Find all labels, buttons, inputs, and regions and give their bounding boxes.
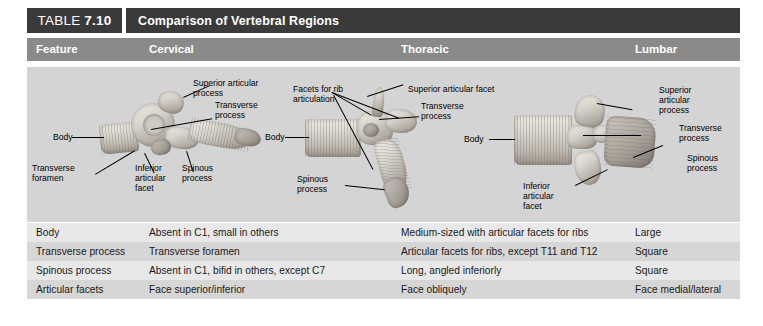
cell-feature: Articular facets: [36, 280, 103, 299]
thoracic-body-shape: [305, 119, 361, 157]
lumbar-inferior-articular-facet-shape: [572, 149, 604, 187]
table-number-badge: TABLE7.10: [27, 8, 122, 33]
thoracic-leader-superior-articular-facet: [367, 84, 403, 97]
cell-feature: Transverse process: [36, 242, 125, 261]
thoracic-leader-spinous-process: [345, 185, 385, 190]
column-header-row: Feature Cervical Thoracic Lumbar: [27, 38, 740, 61]
cell-cervical: Absent in C1, bifid in others, except C7: [149, 261, 325, 280]
table-number-word: TABLE: [38, 13, 81, 28]
cell-lumbar: Large: [635, 223, 661, 242]
column-header-cervical: Cervical: [149, 38, 194, 61]
cervical-label-superior-articular-process: Superior articular process: [193, 78, 258, 98]
thoracic-transverse-process-shape: [384, 108, 418, 135]
lumbar-label-spinous-process: Spinous process: [687, 153, 718, 173]
lumbar-label-transverse-process: Transverse process: [679, 123, 722, 143]
cell-cervical: Absent in C1, small in others: [149, 223, 279, 242]
thoracic-label-body: Body: [265, 132, 285, 142]
cell-lumbar: Square: [635, 261, 668, 280]
column-header-feature: Feature: [36, 38, 78, 61]
lumbar-spinous-process-shape: [603, 115, 656, 168]
column-header-thoracic: Thoracic: [401, 38, 449, 61]
illustrations-band: Superior articular process Transverse pr…: [27, 67, 740, 222]
cell-thoracic: Face obliquely: [401, 280, 467, 299]
cell-thoracic: Long, angled inferiorly: [401, 261, 501, 280]
lumbar-leader-transverse-process: [583, 135, 641, 136]
cell-feature: Body: [36, 223, 59, 242]
thoracic-label-facets-for-rib-articulation: Facets for rib articulation: [293, 84, 343, 104]
cervical-label-spinous-process: Spinous process: [182, 163, 213, 183]
lumbar-label-superior-articular-process: Superior articular process: [659, 85, 691, 116]
cell-lumbar: Face medial/lateral: [635, 280, 721, 299]
cell-feature: Spinous process: [36, 261, 111, 280]
cell-cervical: Face superior/inferior: [149, 280, 245, 299]
cervical-label-transverse-foramen: Transverse foramen: [32, 163, 75, 183]
thoracic-rib-facet-shape: [363, 123, 379, 137]
table-row: Body Absent in C1, small in others Mediu…: [27, 223, 740, 242]
lumbar-label-inferior-articular-facet: Inferior articular facet: [523, 181, 554, 212]
cervical-vertebral-foramen: [143, 114, 165, 136]
cell-thoracic: Medium-sized with articular facets for r…: [401, 223, 588, 242]
column-header-lumbar: Lumbar: [635, 38, 677, 61]
table-title-row: TABLE7.10 Comparison of Vertebral Region…: [27, 8, 740, 33]
lumbar-superior-articular-process-shape: [572, 93, 607, 130]
cervical-label-inferior-articular-facet: Inferior articular facet: [135, 163, 166, 194]
cervical-inferior-articular-facet-shape: [150, 138, 172, 157]
lumbar-leader-body: [489, 139, 515, 140]
thoracic-label-transverse-process: Transverse process: [421, 101, 464, 121]
cervical-label-body: Body: [53, 132, 73, 142]
table-title: Comparison of Vertebral Regions: [126, 8, 740, 33]
cell-thoracic: Articular facets for ribs, except T11 an…: [401, 242, 598, 261]
cervical-label-transverse-process: Transverse process: [215, 100, 258, 120]
thoracic-leader-body: [285, 137, 309, 138]
table-row: Spinous process Absent in C1, bifid in o…: [27, 261, 740, 280]
cell-lumbar: Square: [635, 242, 668, 261]
cervical-leader-body: [72, 137, 104, 138]
vertebral-regions-table: TABLE7.10 Comparison of Vertebral Region…: [27, 8, 740, 311]
table-number-value: 7.10: [84, 13, 111, 28]
lumbar-body-shape: [514, 115, 572, 165]
thoracic-label-spinous-process: Spinous process: [297, 174, 328, 194]
thoracic-label-superior-articular-facet: Superior articular facet: [408, 84, 494, 94]
cell-cervical: Transverse foramen: [149, 242, 240, 261]
table-row: Transverse process Transverse foramen Ar…: [27, 242, 740, 261]
lumbar-label-body: Body: [464, 134, 484, 144]
table-row: Articular facets Face superior/inferior …: [27, 280, 740, 299]
table-body: Body Absent in C1, small in others Mediu…: [27, 223, 740, 299]
